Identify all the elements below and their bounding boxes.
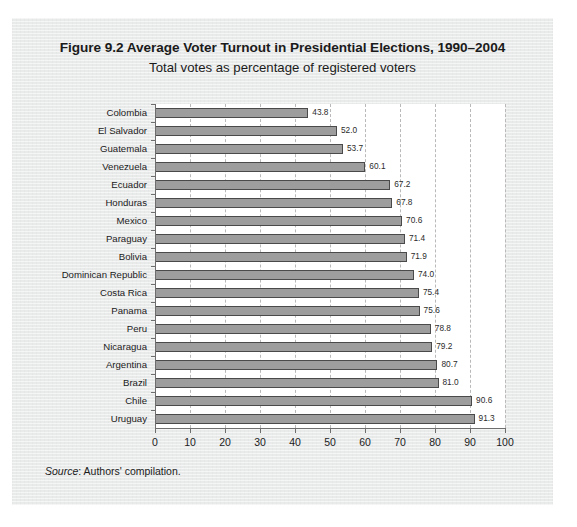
category-label-chile: Chile (12, 392, 147, 410)
chart-plot-area: 43.852.053.760.167.267.870.671.471.974.0… (155, 104, 505, 428)
x-tick-60 (365, 428, 366, 433)
bar-dominican-republic (155, 270, 414, 280)
bar-value-label: 75.6 (424, 305, 440, 316)
y-axis-line (155, 104, 156, 429)
y-tick (151, 176, 155, 177)
source-note: Source: Authors' compilation. (45, 465, 181, 477)
bar-venezuela (155, 162, 365, 172)
bar-colombia (155, 108, 308, 118)
y-tick (151, 392, 155, 393)
x-tick-30 (260, 428, 261, 433)
bar-paraguay (155, 234, 405, 244)
bar-row: 91.3 (155, 410, 505, 428)
bar-guatemala (155, 144, 343, 154)
chart-subtitle: Total votes as percentage of registered … (12, 60, 553, 75)
bar-el-salvador (155, 126, 337, 136)
x-tick-label-90: 90 (464, 436, 476, 448)
bar-row: 53.7 (155, 140, 505, 158)
category-label-dominican-republic: Dominican Republic (12, 266, 147, 284)
category-label-colombia: Colombia (12, 104, 147, 122)
x-tick-40 (295, 428, 296, 433)
bar-row: 81.0 (155, 374, 505, 392)
x-tick-100 (505, 428, 506, 433)
bar-value-label: 78.8 (435, 323, 451, 334)
x-tick-0 (155, 428, 156, 433)
category-label-uruguay: Uruguay (12, 410, 147, 428)
x-tick-label-0: 0 (152, 436, 158, 448)
category-label-paraguay: Paraguay (12, 230, 147, 248)
bar-chile (155, 396, 472, 406)
bar-value-label: 71.9 (411, 251, 427, 262)
bar-value-label: 80.7 (441, 359, 457, 370)
bar-row: 74.0 (155, 266, 505, 284)
x-tick-label-70: 70 (394, 436, 406, 448)
category-label-honduras: Honduras (12, 194, 147, 212)
bar-value-label: 70.6 (406, 215, 422, 226)
chart-plot-wrapper: 43.852.053.760.167.267.870.671.471.974.0… (12, 18, 553, 505)
bar-ecuador (155, 180, 390, 190)
category-label-guatemala: Guatemala (12, 140, 147, 158)
bar-brazil (155, 378, 439, 388)
y-tick (151, 158, 155, 159)
y-tick (151, 302, 155, 303)
title-block: Figure 9.2 Average Voter Turnout in Pres… (12, 40, 553, 75)
page-title: Figure 9.2 Average Voter Turnout in Pres… (12, 40, 553, 55)
x-tick-label-30: 30 (254, 436, 266, 448)
category-label-nicaragua: Nicaragua (12, 338, 147, 356)
bar-row: 79.2 (155, 338, 505, 356)
category-label-brazil: Brazil (12, 374, 147, 392)
y-tick (151, 248, 155, 249)
bar-row: 80.7 (155, 356, 505, 374)
x-tick-50 (330, 428, 331, 433)
bar-peru (155, 324, 431, 334)
bar-value-label: 60.1 (369, 161, 385, 172)
category-label-venezuela: Venezuela (12, 158, 147, 176)
y-tick (151, 374, 155, 375)
x-tick-label-60: 60 (359, 436, 371, 448)
y-tick (151, 284, 155, 285)
y-tick (151, 122, 155, 123)
bar-value-label: 91.3 (479, 413, 495, 424)
bar-value-label: 53.7 (347, 143, 363, 154)
bar-value-label: 75.4 (423, 287, 439, 298)
bar-value-label: 74.0 (418, 269, 434, 280)
bar-row: 78.8 (155, 320, 505, 338)
x-tick-70 (400, 428, 401, 433)
bar-value-label: 90.6 (476, 395, 492, 406)
category-label-panama: Panama (12, 302, 147, 320)
bar-value-label: 79.2 (436, 341, 452, 352)
bar-row: 71.9 (155, 248, 505, 266)
x-tick-label-100: 100 (496, 436, 514, 448)
bar-value-label: 67.2 (394, 179, 410, 190)
y-tick (151, 320, 155, 321)
x-tick-label-10: 10 (184, 436, 196, 448)
bar-panama (155, 306, 420, 316)
y-tick (151, 140, 155, 141)
bar-argentina (155, 360, 437, 370)
y-tick (151, 338, 155, 339)
y-tick (151, 194, 155, 195)
figure-panel: Figure 9.2 Average Voter Turnout in Pres… (12, 18, 553, 505)
y-tick (151, 230, 155, 231)
source-label: Source (45, 465, 78, 477)
bar-uruguay (155, 414, 475, 424)
x-tick-label-20: 20 (219, 436, 231, 448)
bar-mexico (155, 216, 402, 226)
x-tick-20 (225, 428, 226, 433)
bar-row: 75.4 (155, 284, 505, 302)
category-label-mexico: Mexico (12, 212, 147, 230)
y-tick (151, 266, 155, 267)
bar-row: 67.8 (155, 194, 505, 212)
category-label-costa-rica: Costa Rica (12, 284, 147, 302)
bar-value-label: 43.8 (312, 107, 328, 118)
x-tick-10 (190, 428, 191, 433)
x-tick-label-40: 40 (289, 436, 301, 448)
bar-honduras (155, 198, 392, 208)
x-tick-90 (470, 428, 471, 433)
x-tick-label-50: 50 (324, 436, 336, 448)
bar-bolivia (155, 252, 407, 262)
bar-value-label: 67.8 (396, 197, 412, 208)
bar-row: 52.0 (155, 122, 505, 140)
bar-value-label: 52.0 (341, 125, 357, 136)
y-tick (151, 410, 155, 411)
